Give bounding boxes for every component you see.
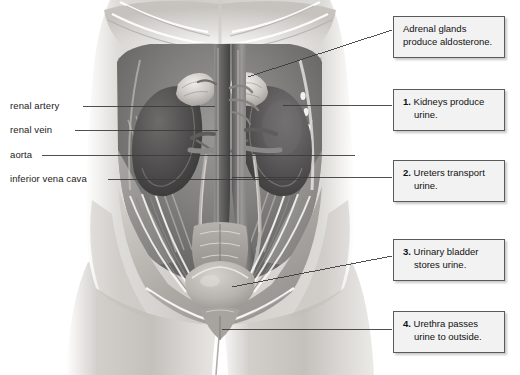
callout-bladder-line2: stores urine. (403, 259, 497, 272)
callout-bladder-line1: 3. Urinary bladder (403, 246, 497, 259)
callout-urethra-text1: Urethra passes (414, 318, 478, 329)
callout-adrenal-line2: produce aldosterone. (403, 36, 497, 49)
callout-ureters-text1: Ureters transport (414, 167, 485, 178)
label-inferior-vena-cava: inferior vena cava (10, 173, 87, 184)
callout-adrenal-glands: Adrenal glands produce aldosterone. (393, 16, 505, 58)
callout-urethra: 4. Urethra passes urine to outside. (393, 311, 505, 353)
callout-kidneys-line2: urine. (403, 109, 497, 122)
callout-kidneys-text1: Kidneys produce (414, 96, 485, 107)
callout-urethra-line2: urine to outside. (403, 331, 497, 344)
callout-bladder-number: 3. (403, 246, 411, 257)
urinary-bladder (185, 261, 255, 310)
callout-bladder-text1: Urinary bladder (414, 246, 479, 257)
callout-kidneys-number: 1. (403, 96, 411, 107)
callout-ureters: 2. Ureters transport urine. (393, 160, 505, 202)
anatomy-diagram-page: renal artery renal vein aorta inferior v… (0, 0, 520, 375)
callout-urethra-number: 4. (403, 318, 411, 329)
callout-ureters-line1: 2. Ureters transport (403, 167, 497, 180)
label-aorta: aorta (10, 149, 32, 160)
callout-urinary-bladder: 3. Urinary bladder stores urine. (393, 239, 505, 281)
callout-ureters-line2: urine. (403, 180, 497, 193)
callout-kidneys-line1: 1. Kidneys produce (403, 96, 497, 109)
label-renal-vein: renal vein (10, 124, 52, 135)
callout-kidneys: 1. Kidneys produce urine. (393, 89, 505, 131)
callout-urethra-line1: 4. Urethra passes (403, 318, 497, 331)
callout-ureters-number: 2. (403, 167, 411, 178)
callout-adrenal-line1: Adrenal glands (403, 23, 497, 36)
label-renal-artery: renal artery (10, 100, 59, 111)
